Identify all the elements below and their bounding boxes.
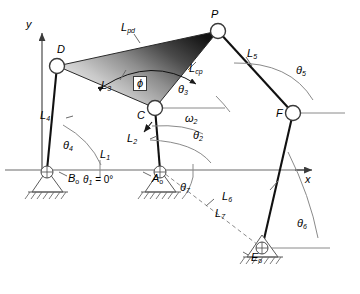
pin-joint-F: [286, 106, 301, 121]
link-label-L6: L6: [222, 191, 232, 203]
joint-label-D: D: [57, 44, 65, 55]
joint-label-C: C: [137, 110, 145, 121]
axis-label-y: y: [26, 19, 32, 30]
link-label-L5: L5: [247, 48, 257, 60]
pin-joint-C: [148, 101, 163, 116]
angle-label-theta5: θ5: [296, 65, 306, 77]
axis-label-x: x: [305, 174, 311, 185]
angle-label-phi: ϕ: [133, 76, 147, 91]
joint-label-A0: Ao: [152, 173, 163, 185]
ground-pivot-B0: [25, 166, 68, 199]
link-L7-dashed: [160, 170, 262, 248]
link-label-L1: L1: [100, 149, 110, 161]
joint-label-F: F: [276, 108, 283, 119]
angle-label-theta6: θ6: [297, 218, 307, 230]
pin-joint-D: [50, 59, 65, 74]
angle-label-theta3: θ3: [178, 84, 188, 96]
angle-label-omega2: ω2: [185, 113, 197, 125]
link-label-L2: L2: [127, 133, 137, 145]
joint-label-E0: Eo: [251, 252, 262, 264]
diagram-canvas: [0, 0, 360, 294]
angle-arc-theta3: [216, 96, 230, 112]
pin-joint-P: [211, 24, 226, 39]
angle-label-theta1: θ1 = 0°: [83, 175, 113, 186]
link-label-L3: L3: [101, 80, 111, 92]
link-L6: [262, 113, 293, 248]
link-L2: [155, 108, 160, 170]
joint-label-P: P: [211, 9, 218, 20]
linkage-diagram: y x D P C F Bo Ao Eo L1 L2 L3 L4 L5 L6 L…: [0, 0, 360, 294]
reference-lines: [155, 108, 345, 248]
link-label-L4: L4: [40, 110, 50, 122]
link-label-Lcp: Lcp: [189, 63, 203, 75]
link-label-Lpd: Lpd: [121, 22, 135, 34]
link-label-L7: L7: [215, 208, 225, 220]
omega2-direction-arrow: [144, 122, 152, 132]
joint-label-B0: Bo: [68, 173, 79, 185]
angle-label-theta4: θ4: [63, 140, 73, 152]
angle-label-theta2: θ2: [193, 130, 203, 142]
angle-label-theta7: θ7: [180, 182, 190, 194]
